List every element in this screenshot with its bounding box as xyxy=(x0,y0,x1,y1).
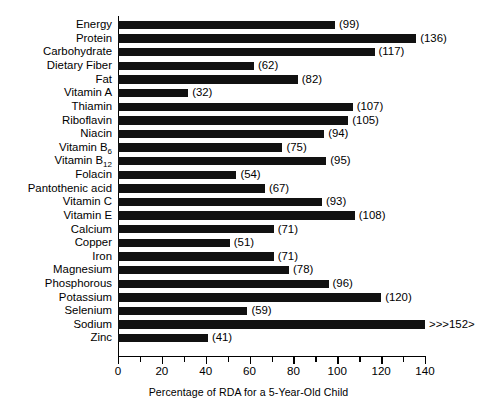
bar xyxy=(118,334,208,342)
bar xyxy=(118,239,230,247)
bar xyxy=(118,103,353,111)
bar-value-label: (75) xyxy=(286,141,306,155)
x-tick-major xyxy=(250,356,251,364)
bar-row: Potassium(120) xyxy=(0,291,497,305)
bar-value-label: (41) xyxy=(212,331,232,345)
bar xyxy=(118,184,265,192)
bar-row: Fat(82) xyxy=(0,73,497,87)
bar-value-label: (51) xyxy=(234,236,254,250)
category-label: Vitamin C xyxy=(63,195,112,209)
bar-value-label: (120) xyxy=(385,291,412,305)
x-tick-major xyxy=(162,356,163,364)
category-label: Copper xyxy=(75,236,112,250)
x-tick-label: 100 xyxy=(328,364,347,377)
bar xyxy=(118,266,289,274)
bar xyxy=(118,198,322,206)
x-tick-major xyxy=(381,356,382,364)
bar-row: Selenium(59) xyxy=(0,304,497,318)
bar-row: Dietary Fiber(62) xyxy=(0,59,497,73)
bar-row: Pantothenic acid(67) xyxy=(0,182,497,196)
bar xyxy=(118,280,329,288)
bar-value-label: (67) xyxy=(269,182,289,196)
x-tick-minor xyxy=(140,356,141,362)
x-tick-minor xyxy=(184,356,185,362)
bar-row: Vitamin B6(75) xyxy=(0,141,497,155)
category-label: Pantothenic acid xyxy=(28,182,112,196)
bar xyxy=(118,320,425,328)
bar-row: Calcium(71) xyxy=(0,223,497,237)
x-tick-label: 140 xyxy=(415,364,434,377)
category-label: Sodium xyxy=(73,318,112,332)
x-tick-minor xyxy=(359,356,360,362)
category-label: Vitamin B12 xyxy=(55,154,112,168)
category-label: Protein xyxy=(76,32,112,46)
bar xyxy=(118,307,247,315)
bar-row: Phosphorous(96) xyxy=(0,277,497,291)
bar xyxy=(118,211,355,219)
category-label: Vitamin A xyxy=(64,86,112,100)
bar-value-label: (71) xyxy=(278,223,298,237)
bar-row: Iron(71) xyxy=(0,250,497,264)
bar-row: Folacin(54) xyxy=(0,168,497,182)
category-label: Niacin xyxy=(80,127,112,141)
bar-row: Niacin(94) xyxy=(0,127,497,141)
category-label: Phosphorous xyxy=(45,277,112,291)
category-label: Carbohydrate xyxy=(43,45,112,59)
bar-value-label: (136) xyxy=(420,32,447,46)
bar-value-label: (82) xyxy=(302,73,322,87)
x-tick-label: 20 xyxy=(155,364,168,377)
category-label: Vitamin B6 xyxy=(59,141,112,155)
category-label: Dietary Fiber xyxy=(47,59,112,73)
bar-value-label: (95) xyxy=(330,154,350,168)
bar-row: Vitamin A(32) xyxy=(0,86,497,100)
bar xyxy=(118,62,254,70)
bar-value-label: (94) xyxy=(328,127,348,141)
category-label: Iron xyxy=(92,250,112,264)
bar xyxy=(118,75,298,83)
bar-value-label: (93) xyxy=(326,195,346,209)
bar-row: Sodium>>>152> xyxy=(0,318,497,332)
category-label: Energy xyxy=(76,18,112,32)
bar-row: Riboflavin(105) xyxy=(0,114,497,128)
category-label: Thiamin xyxy=(71,100,112,114)
bar xyxy=(118,252,274,260)
bar-row: Energy(99) xyxy=(0,18,497,32)
x-tick-major xyxy=(118,356,119,364)
bar xyxy=(118,21,335,29)
bar-value-label: (96) xyxy=(333,277,353,291)
bar-value-label: (107) xyxy=(357,100,384,114)
bar-row: Zinc(41) xyxy=(0,331,497,345)
bar xyxy=(118,157,326,165)
bar-value-label: >>>152> xyxy=(429,318,475,332)
bar xyxy=(118,89,188,97)
bar-row: Vitamin E(108) xyxy=(0,209,497,223)
x-tick-major xyxy=(425,356,426,364)
category-label: Folacin xyxy=(75,168,112,182)
category-label: Vitamin E xyxy=(63,209,112,223)
bar xyxy=(118,34,416,42)
bar xyxy=(118,130,324,138)
bar-value-label: (71) xyxy=(278,250,298,264)
x-tick-minor xyxy=(315,356,316,362)
category-label: Calcium xyxy=(71,223,112,237)
bar-row: Copper(51) xyxy=(0,236,497,250)
bar xyxy=(118,225,274,233)
bar-value-label: (99) xyxy=(339,18,359,32)
x-tick-label: 60 xyxy=(243,364,256,377)
bar-chart-figure: Energy(99)Protein(136)Carbohydrate(117)D… xyxy=(0,0,497,413)
bar-value-label: (105) xyxy=(352,114,379,128)
bar-value-label: (108) xyxy=(359,209,386,223)
category-label: Zinc xyxy=(90,331,112,345)
x-tick-major xyxy=(293,356,294,364)
bar xyxy=(118,293,381,301)
x-tick-major xyxy=(206,356,207,364)
x-tick-major xyxy=(337,356,338,364)
x-tick-label: 0 xyxy=(115,364,121,377)
x-tick-label: 120 xyxy=(371,364,390,377)
bar-value-label: (54) xyxy=(240,168,260,182)
bar-row: Magnesium(78) xyxy=(0,263,497,277)
bar-value-label: (59) xyxy=(251,304,271,318)
bar xyxy=(118,48,375,56)
bar-value-label: (32) xyxy=(192,86,212,100)
bar-value-label: (62) xyxy=(258,59,278,73)
